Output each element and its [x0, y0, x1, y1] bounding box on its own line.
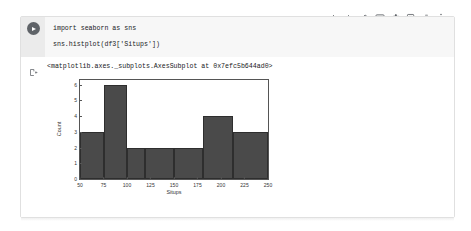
x-tick-label: 125: [146, 179, 154, 188]
code-line: import seaborn as sns: [53, 21, 454, 37]
histogram-bars: [80, 80, 268, 179]
output-repr-text: <matplotlib.axes._subplots.AxesSubplot a…: [45, 61, 454, 72]
x-tick-label: 50: [77, 179, 83, 188]
code-input-area: import seaborn as snssns.histplot(df3['S…: [21, 17, 454, 57]
histogram-bar: [203, 116, 232, 179]
matplotlib-figure: Count 0123456 5075100125150175200225250 …: [55, 73, 315, 201]
x-tick-label: 250: [264, 179, 272, 188]
y-tick-label: 3: [74, 129, 80, 135]
colab-notebook-cell: import seaborn as snssns.histplot(df3['S…: [0, 0, 471, 231]
x-tick-label: 200: [217, 179, 225, 188]
x-tick-label: 225: [240, 179, 248, 188]
histogram-bar: [80, 132, 104, 179]
x-axis-label: Situps: [79, 189, 269, 195]
plot-axes: 0123456 5075100125150175200225250: [79, 79, 269, 180]
code-line: sns.histplot(df3['Situps']): [53, 37, 454, 53]
y-tick-label: 4: [74, 113, 80, 119]
code-editor[interactable]: import seaborn as snssns.histplot(df3['S…: [45, 17, 454, 57]
y-tick-label: 2: [74, 145, 80, 151]
cell-output-area: <matplotlib.axes._subplots.AxesSubplot a…: [21, 58, 454, 217]
y-tick-label: 1: [74, 160, 80, 166]
histogram-bar: [174, 148, 203, 179]
x-tick-label: 75: [101, 179, 107, 188]
run-cell-button[interactable]: [27, 22, 40, 35]
histogram-bar: [145, 148, 174, 179]
y-axis-label: Count: [56, 122, 62, 136]
histogram-bar: [127, 148, 145, 179]
histogram-bar: [233, 132, 268, 179]
output-body: <matplotlib.axes._subplots.AxesSubplot a…: [45, 58, 454, 217]
y-tick-label: 6: [74, 82, 80, 88]
run-gutter: [21, 17, 45, 57]
cell-shadow: [21, 218, 454, 221]
histogram-bar: [104, 85, 128, 179]
x-tick-label: 175: [193, 179, 201, 188]
play-icon: [32, 27, 36, 31]
y-tick-label: 5: [74, 97, 80, 103]
output-gutter: [21, 58, 45, 217]
x-tick-label: 150: [170, 179, 178, 188]
x-tick-label: 100: [123, 179, 131, 188]
output-cell-icon: [29, 63, 38, 81]
